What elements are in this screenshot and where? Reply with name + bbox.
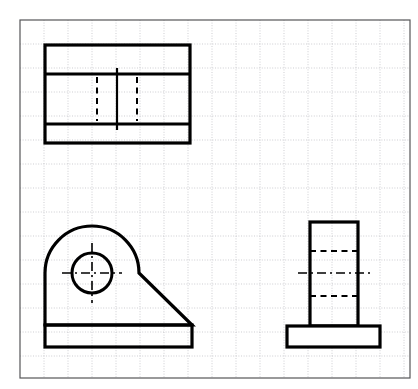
side-view-base-plate — [287, 326, 380, 347]
drawing-canvas — [0, 0, 418, 389]
engineering-drawing-svg — [0, 0, 418, 389]
